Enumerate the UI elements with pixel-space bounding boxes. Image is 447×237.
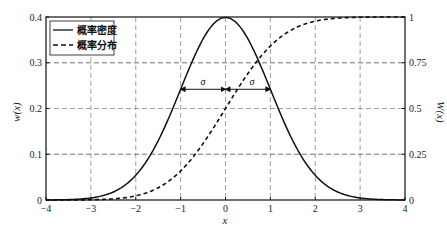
x-tick-label: −2 — [130, 203, 141, 214]
y-right-tick-label: 0.25 — [409, 149, 427, 160]
y-right-tick-label: 0.75 — [409, 57, 427, 68]
y-tick-label: 0.1 — [30, 149, 43, 160]
legend-label-distribution: 概率分布 — [77, 39, 117, 51]
y-axis-right-label: W(x) — [434, 101, 447, 123]
x-tick-label: 0 — [223, 203, 228, 214]
y-axis-left-label: w(x) — [10, 102, 23, 122]
y-right-tick-label: 0.5 — [409, 103, 422, 114]
sigma-label-left: σ — [201, 76, 207, 87]
x-tick-label: 2 — [313, 203, 318, 214]
y-tick-label: 0.4 — [30, 12, 43, 23]
sigma-label-right: σ — [249, 76, 255, 87]
x-tick-label: 1 — [268, 203, 273, 214]
y-right-tick-label: 1 — [409, 12, 414, 23]
y-tick-label: 0.3 — [30, 57, 43, 68]
y-right-tick-label: 0 — [409, 195, 414, 206]
x-axis-label: x — [222, 214, 228, 226]
x-tick-label: −3 — [86, 203, 97, 214]
x-tick-label: −1 — [175, 203, 186, 214]
x-tick-label: −4 — [41, 203, 52, 214]
legend: 概率密度 概率分布 — [50, 21, 118, 55]
x-tick-label: 3 — [358, 203, 363, 214]
y-tick-label: 0.2 — [30, 103, 43, 114]
y-axis-right-ticks: 00.250.50.751 — [402, 12, 427, 206]
legend-label-density: 概率密度 — [77, 24, 118, 36]
chart: 00.10.20.30.4 00.250.50.751 −4−3−2−10123… — [0, 0, 447, 237]
x-tick-label: 4 — [403, 203, 408, 214]
